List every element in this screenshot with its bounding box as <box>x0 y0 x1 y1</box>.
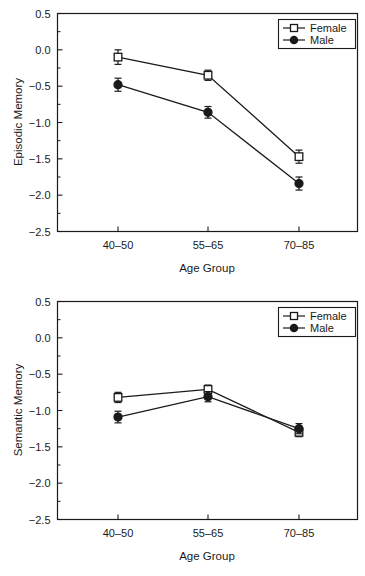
y-tick-label: 0.5 <box>35 296 50 308</box>
legend-female-label: Female <box>310 310 347 322</box>
data-point-filled-circle <box>204 108 212 116</box>
data-point-filled-circle <box>114 81 122 89</box>
data-point-filled-circle <box>295 425 303 433</box>
semantic-y-tick-labels: 0.50.0−0.5−1.0−1.5−2.0−2.5 <box>29 296 51 526</box>
y-tick-label: −2.5 <box>29 514 51 526</box>
episodic-x-axis-title: Age Group <box>179 262 235 274</box>
episodic-legend: Female Male <box>279 20 356 49</box>
y-tick-label: −1.5 <box>29 441 51 453</box>
legend-male-marker-filled-circle <box>290 36 297 43</box>
data-point-open-square <box>204 71 212 79</box>
figure-two-panel-line-charts: 0.50.0−0.5−1.0−1.5−2.0−2.5 40–5055–6570–… <box>0 0 365 576</box>
x-tick-label: 40–50 <box>103 527 134 539</box>
semantic-x-axis-ticks <box>118 515 299 520</box>
x-tick-label: 55–65 <box>193 239 224 251</box>
y-tick-label: −2.0 <box>29 477 51 489</box>
episodic-x-tick-labels: 40–5055–6570–85 <box>103 239 315 251</box>
semantic-series-group <box>114 385 303 437</box>
legend-female-marker-open-square <box>291 313 298 320</box>
x-tick-label: 70–85 <box>284 527 315 539</box>
legend-male-marker-filled-circle <box>290 324 297 331</box>
legend-male-label: Male <box>310 34 334 46</box>
data-point-open-square <box>295 153 303 161</box>
y-tick-label: −2.0 <box>29 189 51 201</box>
y-tick-label: −1.5 <box>29 153 51 165</box>
data-point-open-square <box>114 394 122 402</box>
episodic-y-axis-title: Episodic Memory <box>12 78 24 166</box>
y-tick-label: −1.0 <box>29 117 51 129</box>
x-tick-label: 70–85 <box>284 239 315 251</box>
episodic-memory-chart: 0.50.0−0.5−1.0−1.5−2.0−2.5 40–5055–6570–… <box>0 0 365 288</box>
semantic-memory-chart: 0.50.0−0.5−1.0−1.5−2.0−2.5 40–5055–6570–… <box>0 288 365 576</box>
semantic-y-axis-title: Semantic Memory <box>12 363 24 456</box>
series-line-male <box>118 85 299 184</box>
legend-female-marker-open-square <box>291 25 298 32</box>
data-point-open-square <box>114 53 122 61</box>
data-point-filled-circle <box>114 413 122 421</box>
x-tick-label: 40–50 <box>103 239 134 251</box>
semantic-y-axis-ticks <box>58 302 63 520</box>
episodic-y-axis-ticks <box>58 14 63 232</box>
data-point-filled-circle <box>295 180 303 188</box>
data-point-filled-circle <box>204 393 212 401</box>
series-male <box>114 392 303 434</box>
episodic-series-group <box>114 50 303 190</box>
legend-female-label: Female <box>310 22 347 34</box>
semantic-x-tick-labels: 40–5055–6570–85 <box>103 527 315 539</box>
chart-panel-semantic: 0.50.0−0.5−1.0−1.5−2.0−2.5 40–5055–6570–… <box>0 288 365 576</box>
y-tick-label: 0.0 <box>35 332 50 344</box>
chart-panel-episodic: 0.50.0−0.5−1.0−1.5−2.0−2.5 40–5055–6570–… <box>0 0 365 288</box>
semantic-legend: Female Male <box>279 308 356 337</box>
legend-male-label: Male <box>310 322 334 334</box>
x-tick-label: 55–65 <box>193 527 224 539</box>
y-tick-label: −0.5 <box>29 80 51 92</box>
semantic-x-axis-title: Age Group <box>179 550 235 562</box>
y-tick-label: −2.5 <box>29 226 51 238</box>
episodic-y-tick-labels: 0.50.0−0.5−1.0−1.5−2.0−2.5 <box>29 8 51 238</box>
episodic-x-axis-ticks <box>118 227 299 232</box>
y-tick-label: −1.0 <box>29 405 51 417</box>
y-tick-label: 0.0 <box>35 44 50 56</box>
y-tick-label: 0.5 <box>35 8 50 20</box>
y-tick-label: −0.5 <box>29 368 51 380</box>
